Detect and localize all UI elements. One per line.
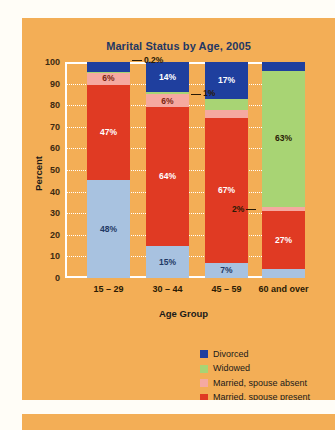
stacked-bar[interactable]: 4%27%63%4% bbox=[262, 62, 305, 278]
plot-area: 48%47%6%5%15%64%6%14%7%67%4%5%17%4%27%63… bbox=[65, 62, 302, 278]
bar-segment[interactable]: 4% bbox=[262, 62, 305, 71]
legend-swatch bbox=[200, 365, 208, 373]
legend-item[interactable]: Divorced bbox=[200, 348, 310, 360]
bar-segment-label: 14% bbox=[159, 73, 176, 82]
next-card-peek bbox=[22, 414, 335, 430]
y-tick-label: 10 bbox=[34, 251, 60, 261]
bar-segment-label: 64% bbox=[159, 172, 176, 181]
bar-segment[interactable]: 48% bbox=[87, 180, 130, 278]
bar-segment[interactable] bbox=[146, 92, 189, 94]
bar-segment[interactable]: 6% bbox=[87, 73, 130, 85]
y-tick-label: 30 bbox=[34, 208, 60, 218]
callout-label: 2% bbox=[232, 204, 258, 214]
callout-text: 2% bbox=[232, 204, 244, 214]
legend-label: Widowed bbox=[213, 364, 250, 373]
chart-card: Marital Status by Age, 2005 100908070605… bbox=[22, 18, 335, 400]
bar-segment[interactable]: 63% bbox=[262, 71, 305, 207]
page-margin-left bbox=[0, 0, 22, 430]
legend-label: Divorced bbox=[213, 350, 249, 359]
bar-segment-label: 15% bbox=[159, 258, 176, 267]
bar-segment-label: 6% bbox=[161, 97, 173, 106]
bar-segment[interactable] bbox=[262, 207, 305, 211]
legend-item[interactable]: Widowed bbox=[200, 363, 310, 375]
bar-segment-label: 7% bbox=[220, 266, 232, 275]
legend-item[interactable]: Married, spouse absent bbox=[200, 377, 310, 389]
y-tick-label: 0 bbox=[34, 273, 60, 283]
bar-segment[interactable]: 7% bbox=[205, 263, 248, 278]
bar-segment[interactable]: 4% bbox=[262, 269, 305, 278]
y-tick-label: 80 bbox=[34, 100, 60, 110]
y-tick-label: 70 bbox=[34, 122, 60, 132]
bar-segment-label: 47% bbox=[100, 128, 117, 137]
bar-segment-label: 6% bbox=[102, 74, 114, 83]
bar-segment[interactable]: 27% bbox=[262, 211, 305, 269]
callout-text: 0.2% bbox=[144, 55, 163, 65]
bar-segment[interactable]: 6% bbox=[146, 94, 189, 107]
x-tick-label: 60 and over bbox=[244, 284, 324, 294]
y-tick-label: 100 bbox=[34, 57, 60, 67]
bar-segment-label: 63% bbox=[275, 134, 292, 143]
bar-segment-label: 48% bbox=[100, 225, 117, 234]
bar-segment[interactable]: 5% bbox=[205, 99, 248, 110]
panel-gap bbox=[22, 400, 335, 414]
stacked-bar[interactable]: 15%64%6%14% bbox=[146, 62, 189, 278]
legend-swatch bbox=[200, 379, 208, 387]
stacked-bar[interactable]: 48%47%6%5% bbox=[87, 62, 130, 278]
legend-label: Married, spouse absent bbox=[213, 379, 307, 388]
y-axis-label: Percent bbox=[33, 142, 44, 206]
bar-segment-label: 67% bbox=[218, 186, 235, 195]
bar-segment[interactable]: 47% bbox=[87, 85, 130, 181]
bar-segment[interactable]: 64% bbox=[146, 107, 189, 245]
legend-swatch bbox=[200, 350, 208, 358]
x-axis-label: Age Group bbox=[65, 308, 302, 319]
callout-label: 1% bbox=[189, 88, 215, 98]
chart-title: Marital Status by Age, 2005 bbox=[22, 40, 335, 52]
callout-label: 0.2% bbox=[130, 55, 163, 65]
bar-segment-label: 17% bbox=[218, 76, 235, 85]
bar-segment[interactable]: 14% bbox=[146, 62, 189, 92]
y-tick-label: 90 bbox=[34, 79, 60, 89]
bar-segment[interactable]: 67% bbox=[205, 118, 248, 263]
page-margin-top bbox=[0, 0, 335, 18]
bar-segment[interactable]: 15% bbox=[146, 246, 189, 278]
bar-segment[interactable]: 5% bbox=[87, 62, 130, 72]
bar-segment[interactable]: 4% bbox=[205, 110, 248, 119]
y-tick-label: 20 bbox=[34, 230, 60, 240]
bar-segment-label: 27% bbox=[275, 236, 292, 245]
callout-text: 1% bbox=[203, 88, 215, 98]
